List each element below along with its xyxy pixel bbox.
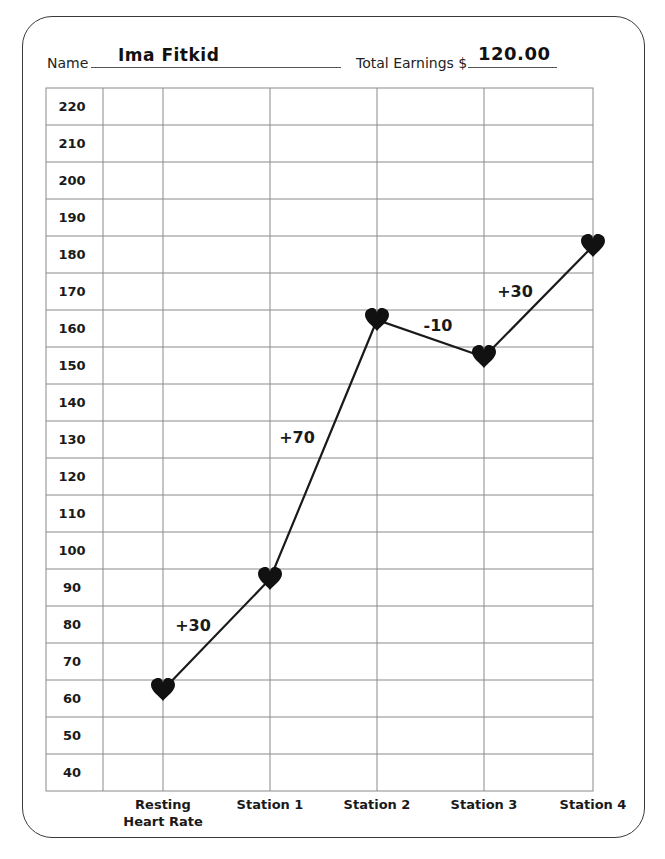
change-annotation: -10 bbox=[424, 316, 453, 335]
y-tick-label: 140 bbox=[58, 395, 85, 410]
x-category-label: Resting bbox=[135, 797, 191, 812]
grid-border bbox=[46, 88, 593, 791]
heart-rate-chart: 2202102001901801701601501401301201101009… bbox=[0, 0, 665, 859]
y-tick-label: 190 bbox=[58, 210, 85, 225]
x-category-label: Heart Rate bbox=[123, 814, 203, 829]
y-tick-label: 150 bbox=[58, 358, 85, 373]
y-tick-label: 130 bbox=[58, 432, 85, 447]
y-tick-label: 110 bbox=[58, 506, 85, 521]
y-tick-label: 210 bbox=[58, 136, 85, 151]
y-tick-label: 160 bbox=[58, 321, 85, 336]
y-tick-label: 70 bbox=[63, 654, 81, 669]
x-category-label: Station 1 bbox=[237, 797, 304, 812]
y-axis-labels: 2202102001901801701601501401301201101009… bbox=[58, 99, 85, 780]
y-tick-label: 60 bbox=[63, 691, 81, 706]
chart-grid bbox=[46, 88, 593, 791]
y-tick-label: 120 bbox=[58, 469, 85, 484]
data-line bbox=[151, 234, 605, 701]
x-axis-labels: RestingHeart RateStation 1Station 2Stati… bbox=[123, 797, 626, 829]
x-category-label: Station 4 bbox=[560, 797, 627, 812]
y-tick-label: 80 bbox=[63, 617, 81, 632]
y-tick-label: 170 bbox=[58, 284, 85, 299]
x-category-label: Station 3 bbox=[451, 797, 518, 812]
y-tick-label: 200 bbox=[58, 173, 85, 188]
y-tick-label: 100 bbox=[58, 543, 85, 558]
y-tick-label: 50 bbox=[63, 728, 81, 743]
y-tick-label: 220 bbox=[58, 99, 85, 114]
y-tick-label: 180 bbox=[58, 247, 85, 262]
change-annotation: +30 bbox=[497, 282, 533, 301]
y-tick-label: 40 bbox=[63, 765, 81, 780]
change-annotation: +70 bbox=[279, 428, 315, 447]
y-tick-label: 90 bbox=[63, 580, 81, 595]
x-category-label: Station 2 bbox=[344, 797, 411, 812]
change-annotation: +30 bbox=[175, 616, 211, 635]
